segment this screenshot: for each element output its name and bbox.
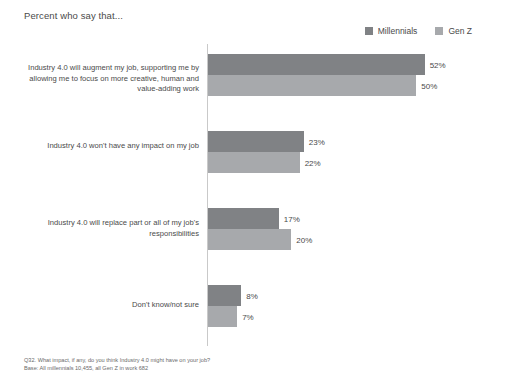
bar-millennials[interactable] (208, 208, 279, 229)
category-label: Industry 4.0 will replace part or all of… (19, 218, 199, 239)
bar-millennials[interactable] (208, 285, 241, 306)
legend-label-genz: Gen Z (448, 26, 472, 36)
chart-legend: Millennials Gen Z (365, 26, 472, 36)
footnote-question: Q32. What impact, if any, do you think I… (24, 357, 210, 364)
plot-area: Industry 4.0 will augment my job, suppor… (0, 44, 510, 346)
legend-item-genz[interactable]: Gen Z (435, 26, 472, 36)
bar-value-genz: 22% (300, 158, 321, 167)
bar-value-millennials: 17% (279, 214, 300, 223)
legend-swatch-millennials (365, 27, 373, 35)
bar-value-genz: 50% (416, 81, 437, 90)
legend-label-millennials: Millennials (378, 26, 418, 36)
bar-genz[interactable] (208, 306, 237, 327)
chart-footnote: Q32. What impact, if any, do you think I… (24, 357, 210, 372)
bar-value-millennials: 52% (425, 60, 446, 69)
bar-value-genz: 7% (237, 312, 254, 321)
bar-genz[interactable] (208, 152, 300, 173)
legend-item-millennials[interactable]: Millennials (365, 26, 418, 36)
bar-genz[interactable] (208, 75, 416, 96)
bar-millennials[interactable] (208, 54, 425, 75)
bar-value-millennials: 23% (304, 137, 325, 146)
category-label: Industry 4.0 won't have any impact on my… (19, 141, 199, 152)
footnote-base: Base: All millennials 10,455, all Gen Z … (24, 365, 210, 372)
category-label: Industry 4.0 will augment my job, suppor… (19, 63, 199, 95)
chart-title: Percent who say that... (24, 10, 123, 21)
category-label: Don't know/not sure (19, 300, 199, 311)
bar-millennials[interactable] (208, 131, 304, 152)
bar-value-millennials: 8% (241, 291, 258, 300)
bar-genz[interactable] (208, 229, 291, 250)
legend-swatch-genz (435, 27, 443, 35)
bar-chart: Percent who say that... Millennials Gen … (0, 0, 510, 379)
bar-value-genz: 20% (291, 235, 312, 244)
